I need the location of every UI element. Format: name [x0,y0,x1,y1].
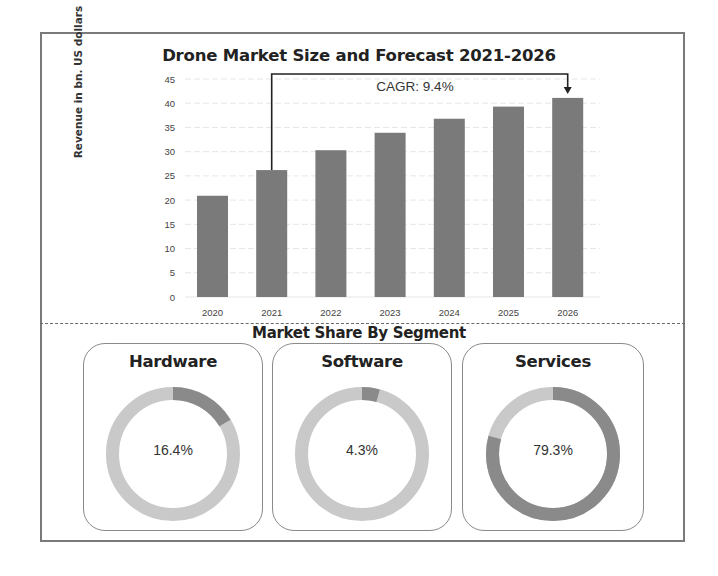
y-tick-label: 45 [164,74,175,85]
y-tick-label: 30 [164,146,175,157]
x-tick-label: 2025 [498,307,519,318]
cagr-label: CAGR: 9.4% [376,79,453,94]
bars [197,98,583,297]
y-axis-ticks: 051015202530354045 [164,74,175,303]
segment-card-hardware: Hardware 16.4% [83,343,263,531]
x-tick-label: 2021 [261,307,282,318]
bar-2021 [256,170,287,297]
segment-value: 79.3% [463,442,643,458]
y-tick-label: 0 [170,292,175,303]
x-tick-label: 2023 [380,307,401,318]
arrowhead-icon [564,87,572,94]
x-tick-label: 2024 [439,307,460,318]
x-axis-ticks: 2020202120222023202420252026 [202,307,578,318]
x-tick-label: 2026 [557,307,578,318]
segment-card-services: Services 79.3% [462,343,644,531]
bar-2026 [552,98,583,297]
segment-title: Services [463,352,643,371]
segment-value: 4.3% [273,442,451,458]
y-tick-label: 20 [164,195,175,206]
segment-title: Software [273,352,451,371]
y-tick-label: 10 [164,243,175,254]
y-tick-label: 40 [164,98,175,109]
x-tick-label: 2020 [202,307,223,318]
y-tick-label: 35 [164,122,175,133]
x-tick-label: 2022 [320,307,341,318]
segment-title: Hardware [84,352,262,371]
segment-value: 16.4% [84,442,262,458]
y-tick-label: 5 [170,267,175,278]
y-tick-label: 15 [164,219,175,230]
bar-2022 [315,150,346,297]
y-tick-label: 25 [164,170,175,181]
bar-2024 [434,119,465,297]
bar-2020 [197,196,228,297]
bar-chart: 051015202530354045 202020212022202320242… [0,0,718,330]
segment-card-software: Software 4.3% [272,343,452,531]
bar-2023 [375,133,406,297]
bar-2025 [493,107,524,297]
segment-section-title: Market Share By Segment [0,324,718,342]
